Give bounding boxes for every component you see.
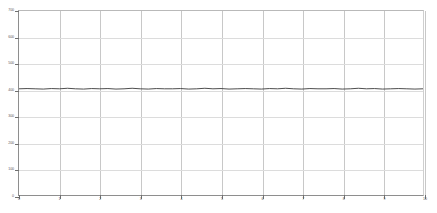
x-tick-label: 6	[262, 198, 264, 202]
data-trace-line	[19, 88, 423, 89]
y-tick-label: 100	[8, 169, 14, 173]
x-tick-label: 8	[343, 198, 345, 202]
y-tick-label: 200	[8, 142, 14, 146]
x-tick-label: 0	[18, 198, 20, 202]
y-tick-label: 700	[8, 9, 14, 13]
x-tick-label: 7	[302, 198, 304, 202]
x-tick-label: 2	[99, 198, 101, 202]
plot-area: 0100200300400500600700 012345678910	[18, 10, 424, 196]
gridline-vertical	[425, 11, 426, 195]
x-tick-label: 3	[140, 198, 142, 202]
x-tick-label: 10	[423, 198, 427, 202]
y-tick-label: 300	[8, 115, 14, 119]
y-tick-label: 400	[8, 89, 14, 93]
data-trace-svg	[19, 11, 423, 195]
x-tick-label: 9	[383, 198, 385, 202]
x-tick-label: 5	[221, 198, 223, 202]
x-tick-label: 4	[180, 198, 182, 202]
y-tick-label: 600	[8, 36, 14, 40]
chart-container: 0100200300400500600700 012345678910	[0, 0, 437, 213]
y-tick-label: 0	[12, 195, 14, 199]
y-tick-label: 500	[8, 62, 14, 66]
x-tick-label: 1	[59, 198, 61, 202]
